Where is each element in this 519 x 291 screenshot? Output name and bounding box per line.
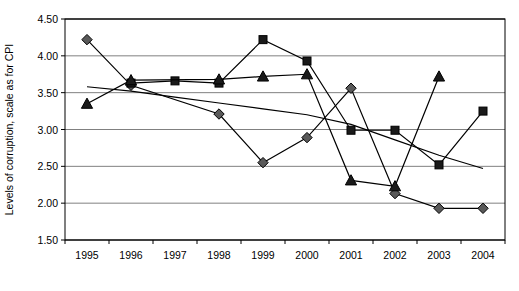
corruption-levels-line-chart: 4.504.003.503.002.502.001.50 19951996199… [0,0,519,291]
chart-canvas: 4.504.003.503.002.502.001.50 19951996199… [0,0,519,291]
data-point-square [435,161,443,169]
x-tick-label: 2002 [383,249,407,261]
x-tick-label: 2004 [471,249,495,261]
y-tick-label: 2.00 [38,197,59,209]
y-tick-label: 1.50 [38,234,59,246]
y-axis-label-text: Levels of corruption, scale as for CPI [3,44,15,216]
y-tick-label: 2.50 [38,160,59,172]
y-axis-title: Levels of corruption, scale as for CPI [3,44,15,216]
x-tick-label: 1998 [207,249,231,261]
y-tick-label: 4.00 [38,50,59,62]
data-point-square [347,126,355,134]
x-tick-label: 1995 [75,249,99,261]
data-point-square [479,107,487,115]
y-tick-label: 4.50 [38,13,59,25]
y-tick-label: 3.00 [38,124,59,136]
x-tick-label: 1996 [119,249,143,261]
data-point-square [391,126,399,134]
x-tick-label: 2003 [427,249,451,261]
x-tick-label: 1999 [251,249,275,261]
data-point-square [171,77,179,85]
y-tick-label: 3.50 [38,87,59,99]
x-tick-label: 2001 [339,249,363,261]
data-point-square [303,57,311,65]
x-tick-label: 1997 [163,249,187,261]
x-tick-label: 2000 [295,249,319,261]
data-point-square [259,36,267,44]
